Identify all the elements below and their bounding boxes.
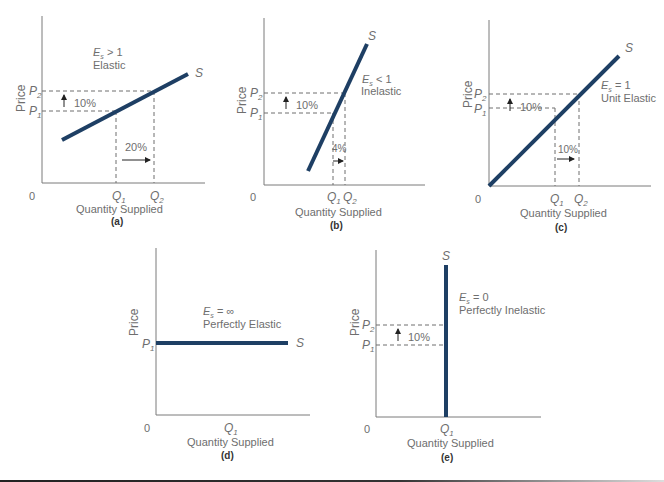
elasticity-desc: Inelastic bbox=[361, 85, 402, 97]
origin-label: 0 bbox=[144, 422, 150, 434]
es-label: Es = 1 bbox=[601, 79, 631, 93]
qty-change-label: 4% bbox=[332, 143, 347, 154]
es-label: Es > 1 bbox=[93, 46, 123, 60]
x-axis-label: Quantity Supplied bbox=[520, 207, 607, 219]
p1-label: P1 bbox=[474, 102, 486, 118]
panel-b: Price P2 P1 10% 4% Es < 1 Inelastic S 0 … bbox=[235, 18, 425, 231]
y-axis-label: Price bbox=[127, 308, 141, 336]
y-axis-label: Price bbox=[348, 308, 362, 336]
supply-label: S bbox=[368, 29, 376, 43]
es-label: Es = ∞ bbox=[203, 305, 234, 319]
price-change-label: 10% bbox=[520, 101, 542, 113]
panel-caption: (e) bbox=[441, 452, 453, 463]
p2-label: P2 bbox=[362, 318, 375, 334]
p1-label: P1 bbox=[29, 104, 41, 120]
q1-label: Q1 bbox=[550, 192, 564, 208]
q2-label: Q2 bbox=[574, 192, 588, 208]
y-axis-label: Price bbox=[14, 84, 28, 112]
es-label: Es = 0 bbox=[459, 291, 489, 305]
q1-label: Q1 bbox=[440, 422, 454, 438]
panel-caption: (d) bbox=[221, 450, 234, 461]
panel-c: Price P2 P1 10% 10% Es = 1 Unit Elastic … bbox=[461, 20, 657, 233]
elasticity-desc: Elastic bbox=[93, 59, 126, 71]
supply-label: S bbox=[625, 41, 633, 55]
x-axis-label: Quantity Supplied bbox=[295, 206, 382, 218]
p2-label: P2 bbox=[250, 86, 263, 102]
panel-caption: (c) bbox=[555, 222, 567, 233]
panel-e: Price P2 P1 10% Es = 0 Perfectly Inelast… bbox=[348, 249, 546, 463]
supply-elasticity-diagram: Price P2 P1 10% 20% Es > 1 Elastic S 0 Q… bbox=[0, 0, 664, 482]
origin-label: 0 bbox=[475, 193, 481, 205]
p1-label: P1 bbox=[362, 338, 374, 354]
origin-label: 0 bbox=[364, 423, 370, 435]
y-axis-label: Price bbox=[461, 80, 475, 108]
x-axis-label: Quantity Supplied bbox=[76, 203, 163, 215]
panel-a: Price P2 P1 10% 20% Es > 1 Elastic S 0 Q… bbox=[14, 16, 205, 227]
elasticity-desc: Unit Elastic bbox=[601, 92, 657, 104]
p2-label: P2 bbox=[29, 84, 42, 100]
elasticity-desc: Perfectly Elastic bbox=[203, 318, 282, 330]
panel-caption: (a) bbox=[111, 216, 123, 227]
x-axis-label: Quantity Supplied bbox=[407, 437, 494, 449]
panel-caption: (b) bbox=[330, 220, 343, 231]
origin-label: 0 bbox=[250, 191, 256, 203]
qty-change-label: 20% bbox=[125, 141, 147, 153]
p1-label: P1 bbox=[250, 106, 262, 122]
q1-label: Q1 bbox=[327, 190, 341, 206]
elasticity-desc: Perfectly Inelastic bbox=[459, 304, 546, 316]
origin-label: 0 bbox=[29, 190, 35, 202]
q1-label: Q1 bbox=[224, 421, 238, 437]
y-axis-label: Price bbox=[235, 86, 249, 114]
p1-label: P1 bbox=[142, 337, 154, 353]
panel-d: Price P1 Es = ∞ Perfectly Elastic S 0 Q1… bbox=[127, 248, 310, 461]
qty-change-label: 10% bbox=[558, 144, 578, 155]
supply-curve bbox=[489, 56, 619, 186]
q2-label: Q2 bbox=[343, 190, 357, 206]
price-change-label: 10% bbox=[408, 331, 430, 343]
supply-label: S bbox=[442, 249, 450, 263]
x-axis-label: Quantity Supplied bbox=[187, 436, 274, 448]
supply-label: S bbox=[195, 66, 203, 80]
p2-label: P2 bbox=[474, 87, 487, 103]
price-change-label: 10% bbox=[74, 97, 96, 109]
price-change-label: 10% bbox=[296, 99, 318, 111]
supply-label: S bbox=[296, 336, 304, 350]
